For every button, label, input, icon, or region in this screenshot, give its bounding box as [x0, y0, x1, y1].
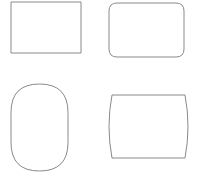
shapes-canvas — [0, 0, 203, 179]
shapes-svg — [0, 0, 203, 179]
shape-barrel[interactable] — [109, 95, 188, 158]
shape-rounded-rectangle[interactable] — [109, 3, 184, 57]
shape-rectangle[interactable] — [11, 2, 81, 53]
shape-stadium-oval[interactable] — [11, 84, 68, 171]
